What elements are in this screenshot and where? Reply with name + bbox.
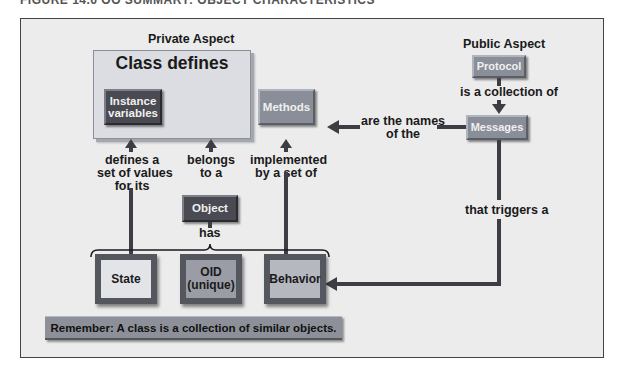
behavior-label: Behavior: [270, 260, 320, 298]
oid-label: OID (unique): [186, 260, 236, 298]
remember-note: Remember: A class is a collection of sim…: [45, 316, 342, 340]
state-label: State: [101, 260, 151, 298]
oid-box: OID (unique): [180, 254, 242, 304]
state-box: State: [95, 254, 157, 304]
oid-line2: (unique): [187, 279, 234, 292]
behavior-box: Behavior: [264, 254, 326, 304]
